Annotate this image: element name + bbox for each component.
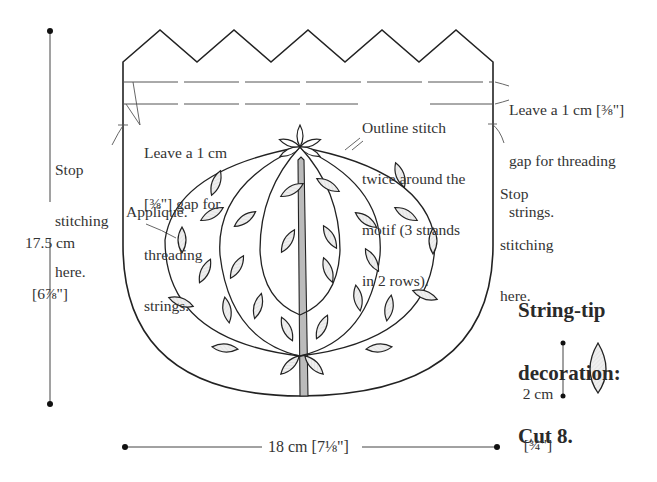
applique-label: Appliqué. bbox=[126, 203, 188, 220]
stop-stitching-left-label: Stop stitching here. bbox=[55, 127, 108, 297]
outline-stitch-label: Outline stitch twice around the motif (3… bbox=[362, 85, 465, 306]
top-flower bbox=[278, 125, 321, 159]
width-dimension-label: 18 cm [7⅛"] bbox=[268, 438, 349, 456]
string-tip-dimension-label: 2 cm [¾"] bbox=[520, 351, 556, 470]
gap-left-label: Leave a 1 cm [⅜"] gap for threading stri… bbox=[144, 110, 227, 331]
